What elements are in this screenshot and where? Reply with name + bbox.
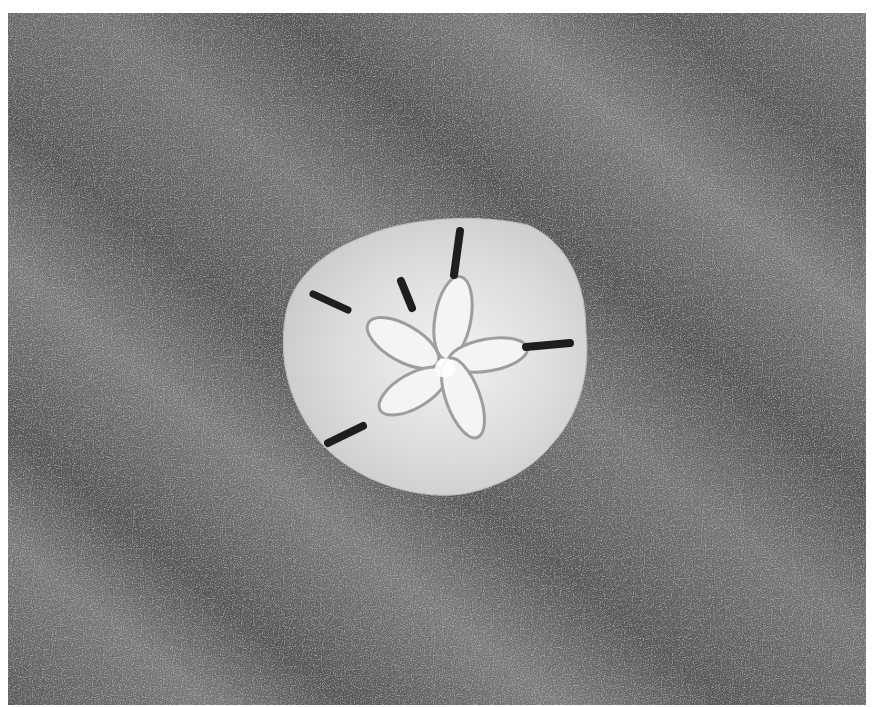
- sand-dollar-photo: A sand dollar lying on rippled sand, bla…: [8, 13, 866, 705]
- sand-background: [8, 13, 866, 705]
